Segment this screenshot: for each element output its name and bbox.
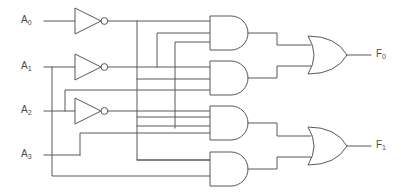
and-gate-2 [210,61,248,95]
or-gate-f1 [308,127,347,165]
input-label-a0: A0 [21,15,32,26]
inverter-a1 [75,54,108,80]
and-gate-4 [210,152,248,186]
inverter-a2 [75,98,108,124]
net-branch-upper-step-1 [157,33,210,67]
input-label-a1: A1 [21,61,32,72]
net-a3-step-up [80,133,210,155]
input-label-a2: A2 [21,105,32,116]
circuit-schematic [0,0,401,192]
wire-and1-to-or1 [248,33,311,45]
net-branch-upper-step-2 [175,42,210,128]
inverter-a0 [75,8,108,34]
wire-and2-to-or1 [248,66,311,78]
wire-and4-to-or2 [248,157,311,169]
and-gate-1 [210,16,248,50]
output-label-f0: F0 [376,49,386,60]
output-label-f1: F1 [376,140,386,151]
circuit-diagram-canvas: A0 A1 A2 A3 F0 F1 [0,0,401,192]
net-a1-not [108,67,210,117]
net-a2-not [108,111,210,126]
wire-and3-to-or2 [248,123,311,136]
input-label-a3: A3 [21,149,32,160]
or-gate-f0 [308,36,347,74]
and-gate-3 [210,106,248,140]
